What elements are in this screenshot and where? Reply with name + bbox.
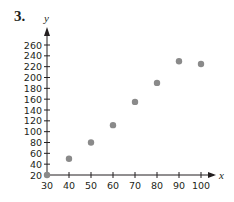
y-axis-label: y xyxy=(43,12,49,24)
x-tick-label: 70 xyxy=(129,180,141,191)
x-tick-label: 90 xyxy=(173,180,185,191)
data-point xyxy=(88,139,94,145)
data-point xyxy=(132,99,138,105)
data-point xyxy=(154,80,160,86)
x-tick-label: 40 xyxy=(63,180,75,191)
y-tick-label: 100 xyxy=(24,126,42,137)
data-points xyxy=(44,58,204,178)
data-point xyxy=(44,172,50,178)
y-tick-label: 180 xyxy=(24,83,42,94)
x-axis-arrow-icon xyxy=(208,172,216,178)
y-tick-label: 260 xyxy=(24,40,42,51)
scatter-plot: yx20406080100120140160180200220240260304… xyxy=(0,0,234,202)
y-tick-label: 220 xyxy=(24,61,42,72)
x-axis-label: x xyxy=(218,169,224,181)
data-point xyxy=(198,61,204,67)
data-point xyxy=(176,58,182,64)
x-tick-label: 60 xyxy=(107,180,119,191)
y-tick-label: 80 xyxy=(30,137,42,148)
data-point xyxy=(66,156,72,162)
y-axis-arrow-icon xyxy=(44,27,50,36)
data-point xyxy=(110,122,116,128)
y-tick-label: 20 xyxy=(30,170,42,181)
y-tick-label: 140 xyxy=(24,105,42,116)
y-tick-label: 200 xyxy=(24,72,42,83)
y-tick-label: 60 xyxy=(30,148,42,159)
x-tick-label: 30 xyxy=(41,180,53,191)
x-tick-label: 80 xyxy=(151,180,163,191)
y-tick-label: 160 xyxy=(24,94,42,105)
x-tick-label: 50 xyxy=(85,180,97,191)
y-tick-label: 40 xyxy=(30,159,42,170)
y-tick-label: 120 xyxy=(24,115,42,126)
axes: yx20406080100120140160180200220240260304… xyxy=(24,12,224,191)
y-tick-label: 240 xyxy=(24,50,42,61)
x-tick-label: 100 xyxy=(192,180,210,191)
